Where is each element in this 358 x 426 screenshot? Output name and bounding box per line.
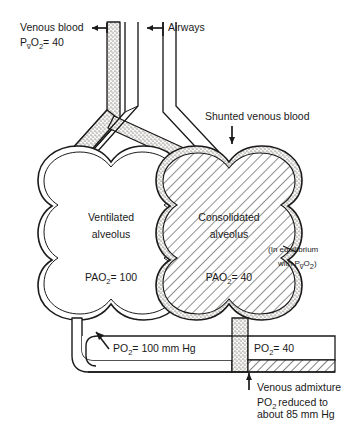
- eq-c: ): [314, 259, 317, 268]
- arrow-down-icon-shunt: [229, 126, 235, 144]
- label-equilibrium-line1: (In equilibrium: [268, 245, 319, 254]
- venous-admixture-band: [248, 360, 335, 372]
- po2-l-val: = 100 mm Hg: [132, 342, 195, 354]
- pao2-r-prefix: PAO: [206, 271, 227, 283]
- pv-eq: = 40: [43, 36, 64, 48]
- arrow-up-icon-admixture: [246, 373, 252, 390]
- label-venous-admixture: Venous admixture: [257, 381, 341, 393]
- adm-rest: reduced to: [278, 396, 328, 408]
- label-ventilated-alveolus-line1: Ventilated: [88, 211, 134, 223]
- pao2-r-val: = 40: [231, 271, 252, 283]
- po2-l-prefix: PO: [113, 342, 128, 354]
- svg-text:Pv̅O2= 40: Pv̅O2= 40: [20, 36, 64, 51]
- pao2-l-prefix: PAO: [85, 271, 106, 283]
- label-shunted-venous-blood: Shunted venous blood: [205, 110, 310, 122]
- label-consolidated-alveolus-line1: Consolidated: [198, 211, 259, 223]
- label-admixture-result-line2: about 85 mm Hg: [257, 408, 335, 420]
- pv-o: O: [31, 36, 39, 48]
- arrow-left-icon: [92, 23, 108, 33]
- shunt-vessel-venous: [232, 318, 248, 372]
- label-consolidated-alveolus-line2: alveolus: [210, 228, 249, 240]
- arrow-left-icon-airways: [147, 22, 164, 36]
- pao2-l-val: = 100: [111, 271, 138, 283]
- label-venous-blood: Venous blood: [20, 21, 84, 33]
- airway-tube-right: [163, 22, 219, 158]
- diagram-canvas: Venous blood Pv̅O2= 40 Airways Shunted v…: [0, 0, 358, 426]
- label-pv-o2-value: Pv̅O2= 40: [20, 36, 64, 51]
- label-airways: Airways: [168, 21, 205, 33]
- eq-a: with P: [277, 259, 300, 268]
- adm-prefix: PO: [257, 396, 272, 408]
- pv-p: P: [20, 36, 27, 48]
- po2-r-val: = 40: [273, 342, 294, 354]
- label-ventilated-alveolus-line2: alveolus: [92, 228, 131, 240]
- alveolus-shunt-diagram: Venous blood Pv̅O2= 40 Airways Shunted v…: [0, 0, 358, 426]
- po2-r-prefix: PO: [254, 342, 269, 354]
